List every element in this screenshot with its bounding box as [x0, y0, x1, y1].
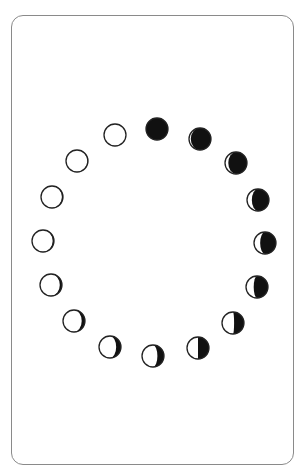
waxing-crescent-thin-icon — [189, 128, 211, 150]
near-full-3-icon — [41, 186, 63, 208]
moon-phase-ring — [0, 0, 306, 475]
first-quarter-icon — [187, 337, 209, 359]
full-moon-icon — [104, 124, 126, 146]
new-moon-icon — [146, 118, 168, 140]
near-full-4-icon — [66, 150, 88, 172]
near-full-2-icon — [32, 230, 54, 252]
waxing-gibbous-3-icon — [63, 310, 85, 332]
waxing-gibbous-icon — [142, 345, 164, 367]
waxing-crescent-icon — [225, 152, 247, 174]
waxing-crescent-2-icon — [247, 189, 269, 211]
waxing-gibbous-2-icon — [99, 336, 121, 358]
waxing-crescent-3-icon — [254, 232, 276, 254]
near-full-icon — [40, 274, 62, 296]
waxing-crescent-4-icon — [246, 276, 268, 298]
near-quarter-icon — [222, 312, 244, 334]
